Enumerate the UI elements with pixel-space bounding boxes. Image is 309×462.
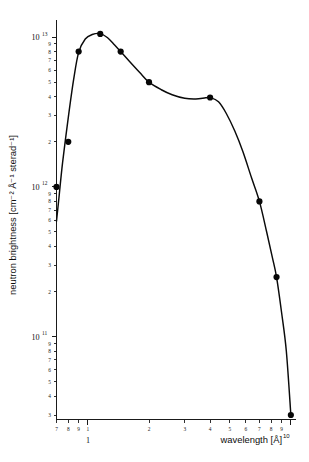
y-axis-title-text: neutron brightness [cm⁻² Å⁻¹ sterad⁻¹] — [7, 135, 18, 295]
y-minor-tick-label: 5 — [48, 79, 51, 85]
y-axis-title: neutron brightness [cm⁻² Å⁻¹ sterad⁻¹] — [7, 135, 18, 295]
y-minor-tick-label: 4 — [48, 243, 51, 249]
x-tick-label: 3 — [183, 426, 186, 432]
x-tick-label: 9 — [280, 426, 283, 432]
y-decade-label: 10 — [31, 183, 39, 192]
y-minor-tick-label: 3 — [48, 412, 51, 418]
x-major-label-one: 1 — [86, 436, 90, 445]
data-point-marker — [97, 31, 103, 37]
x-tick-label: 8 — [67, 426, 70, 432]
x-tick-label: 6 — [244, 426, 247, 432]
y-minor-tick-label: 8 — [48, 348, 51, 354]
x-tick-label: 1 — [87, 426, 90, 432]
x-tick-label: 7 — [55, 426, 58, 432]
y-axis-minor-tick-labels: 98765432987654329876543 — [48, 41, 51, 418]
y-minor-tick-label: 4 — [48, 94, 51, 100]
data-point-marker — [207, 94, 213, 100]
y-decade-exponent: 13 — [42, 31, 48, 37]
y-minor-tick-label: 8 — [48, 198, 51, 204]
svg-text:neutron brightness [cm⁻² Å⁻¹ s: neutron brightness [cm⁻² Å⁻¹ sterad⁻¹] — [7, 135, 18, 295]
data-point-marker — [53, 184, 59, 190]
y-minor-tick-label: 8 — [48, 49, 51, 55]
x-tick-label: 7 — [258, 426, 261, 432]
svg-text:wavelength [Å]: wavelength [Å] — [220, 434, 283, 445]
data-point-marker — [288, 412, 294, 418]
y-minor-tick-label: 3 — [48, 112, 51, 118]
y-minor-tick-label: 9 — [48, 191, 51, 197]
x-tick-label: 5 — [228, 426, 231, 432]
x-tick-label: 4 — [209, 426, 212, 432]
y-minor-tick-label: 5 — [48, 229, 51, 235]
y-minor-tick-label: 6 — [48, 67, 51, 73]
x-axis-title-text: wavelength [Å] — [220, 434, 283, 445]
x-axis-title: wavelength [Å] 10 — [220, 433, 291, 445]
data-point-marker — [118, 48, 124, 54]
y-minor-tick-label: 3 — [48, 262, 51, 268]
chart-background — [0, 0, 309, 462]
y-minor-tick-label: 6 — [48, 217, 51, 223]
y-minor-tick-label: 2 — [48, 139, 51, 145]
data-point-marker — [273, 274, 279, 280]
y-minor-tick-label: 7 — [48, 207, 51, 213]
x-tick-label: 9 — [77, 426, 80, 432]
neutron-brightness-chart: 98765432987654329876543 101310121011 789… — [0, 0, 309, 462]
chart-canvas: 98765432987654329876543 101310121011 789… — [0, 0, 309, 462]
x-axis-title-superscript-10: 10 — [283, 433, 290, 439]
y-minor-tick-label: 5 — [48, 379, 51, 385]
data-point-marker — [65, 139, 71, 145]
data-point-marker — [76, 48, 82, 54]
y-decade-exponent: 11 — [42, 330, 47, 336]
data-point-marker — [256, 198, 262, 204]
y-minor-tick-label: 7 — [48, 357, 51, 363]
x-tick-label: 8 — [270, 426, 273, 432]
y-decade-label: 10 — [31, 333, 39, 342]
y-minor-tick-label: 2 — [48, 289, 51, 295]
y-minor-tick-label: 7 — [48, 57, 51, 63]
x-tick-label: 2 — [148, 426, 151, 432]
y-minor-tick-label: 6 — [48, 367, 51, 373]
y-minor-tick-label: 9 — [48, 341, 51, 347]
y-decade-label: 10 — [31, 33, 39, 42]
x-axis-major-labels: 1 — [86, 436, 90, 445]
data-point-marker — [146, 79, 152, 85]
y-decade-exponent: 12 — [42, 180, 48, 186]
y-minor-tick-label: 4 — [48, 393, 51, 399]
y-minor-tick-label: 9 — [48, 41, 51, 47]
